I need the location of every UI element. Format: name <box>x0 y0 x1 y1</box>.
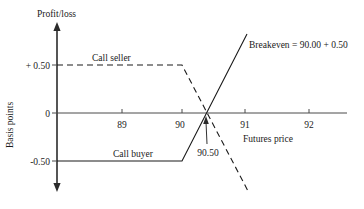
x-axis-title: Futures price <box>243 134 293 144</box>
breakeven-annotation: Breakeven = 90.00 + 0.50 <box>249 40 348 50</box>
y-axis-arrow-down-icon <box>53 183 60 192</box>
x-tick-label-91: 91 <box>240 120 250 130</box>
series-call-buyer-line <box>57 34 247 161</box>
x-tick-label-90: 90 <box>175 120 185 130</box>
y-axis <box>53 22 60 192</box>
x-tick-label-92: 92 <box>304 120 314 130</box>
breakeven-callout-label: 90.50 <box>197 148 219 158</box>
breakeven-pointer-shaft <box>206 122 207 144</box>
series-label-call-seller: Call seller <box>92 53 132 63</box>
x-axis <box>57 109 347 113</box>
y-axis-title: Basis points <box>5 102 15 148</box>
breakeven-pointer <box>203 116 209 144</box>
series-label-call-buyer: Call buyer <box>113 149 154 159</box>
y-tick-label-plus-half: + 0.50 <box>26 61 51 71</box>
y-axis-arrow-up-icon <box>53 22 60 31</box>
payoff-diagram: Profit/loss Basis points + 0.50 0 -0.50 … <box>0 0 364 209</box>
y-tick-label-zero: 0 <box>45 109 50 119</box>
series-call-seller-line <box>57 65 248 191</box>
x-tick-label-89: 89 <box>117 120 127 130</box>
y-tick-label-minus-half: -0.50 <box>30 157 50 167</box>
y-axis-top-label: Profit/loss <box>37 9 76 19</box>
payoff-chart-canvas: Profit/loss Basis points + 0.50 0 -0.50 … <box>0 0 364 209</box>
